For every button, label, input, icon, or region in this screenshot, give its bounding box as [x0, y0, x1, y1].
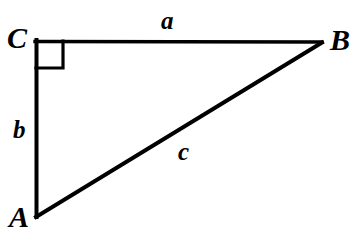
right-angle-marker-icon	[36, 41, 63, 68]
vertex-label-c: C	[7, 23, 27, 53]
side-label-b: b	[13, 117, 26, 142]
side-a-line	[35, 42, 322, 43]
side-label-c: c	[178, 139, 189, 164]
side-c-line	[36, 43, 322, 218]
side-label-a: a	[161, 8, 174, 33]
vertex-label-b: B	[330, 25, 350, 55]
triangle-drawing	[0, 0, 354, 237]
triangle-figure: C B A a b c	[0, 0, 354, 237]
vertex-label-a: A	[9, 202, 29, 232]
